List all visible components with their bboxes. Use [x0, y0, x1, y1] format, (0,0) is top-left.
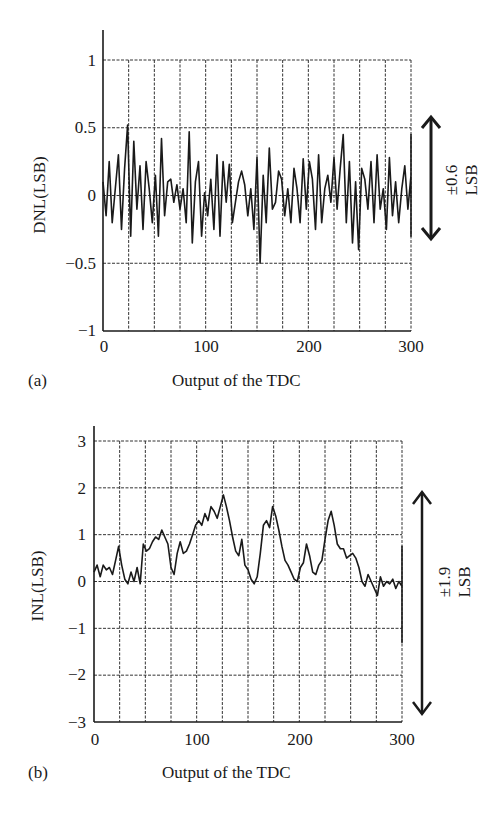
- series-line-inl: [94, 495, 402, 643]
- inl-range-value: ±1.9: [435, 552, 455, 612]
- inl-range-unit: LSB: [455, 552, 475, 612]
- inl-range-arrow-icon: [407, 488, 437, 718]
- inl-range-label: ±1.9 LSB: [435, 552, 475, 612]
